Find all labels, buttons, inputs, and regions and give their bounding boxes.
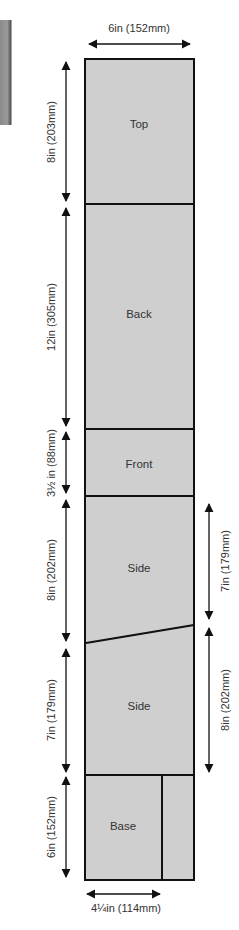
part-front-label: Front [126,458,154,470]
part-top-label: Top [130,118,149,130]
dim-side2-left: 7in (179mm) [45,679,57,741]
cutting-diagram: Top Back Front Side Side Base 6in (152mm… [0,0,239,930]
dim-width-top: 6in (152mm) [108,22,170,34]
dim-base-height: 6in (152mm) [45,796,57,858]
dim-side1-right: 7in (179mm) [219,530,231,592]
part-base-label: Base [110,820,136,832]
dim-front-height: 3½ in (88mm) [45,429,57,497]
dim-side1-left: 8in (202mm) [45,539,57,601]
dim-base-width: 4¼in (114mm) [91,902,161,914]
dim-side2-right: 8in (202mm) [219,669,231,731]
part-side-1-label: Side [127,562,150,574]
dim-top-height: 8in (203mm) [45,101,57,163]
part-side-2-label: Side [127,700,150,712]
dim-back-height: 12in (305mm) [45,283,57,351]
part-back-label: Back [126,308,152,320]
